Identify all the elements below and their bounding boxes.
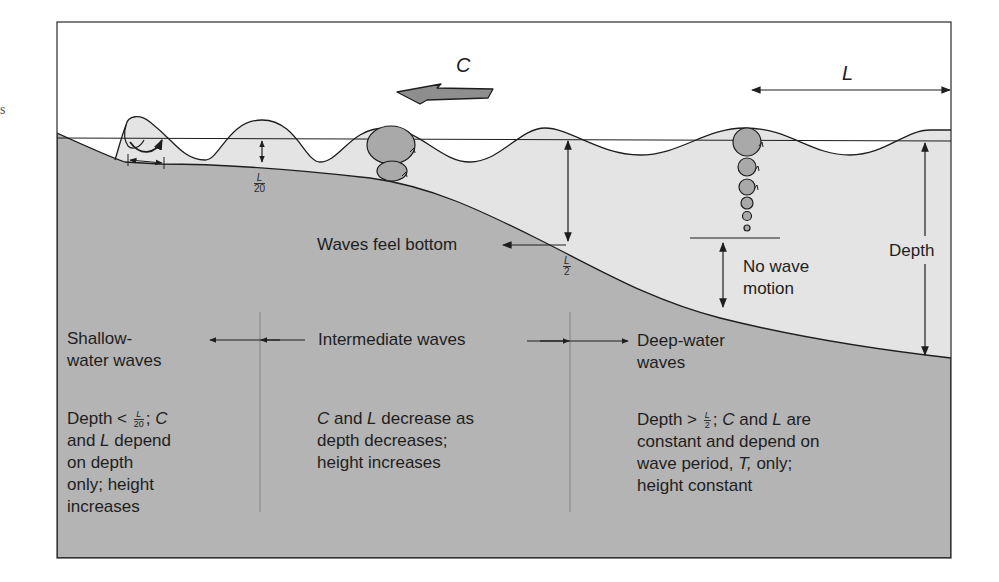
- shallow-heading-1: Shallow-: [67, 328, 132, 349]
- orbit-intermediate-1: [367, 126, 415, 164]
- deep-heading-1: Deep-water: [637, 330, 725, 351]
- orbit-deep-6: [744, 225, 750, 231]
- desc-text: Depth <: [67, 409, 132, 428]
- stray-glyph: s: [0, 102, 5, 118]
- orbit-deep-3: [739, 179, 755, 195]
- desc-text: wave period,: [637, 454, 738, 473]
- inline-fraction: L2: [704, 411, 711, 430]
- desc-text: Depth >: [637, 410, 702, 429]
- depth-label: Depth: [889, 240, 934, 261]
- intermediate-desc-line-1: C and L decrease as: [317, 408, 474, 429]
- deep-desc-line-1: Depth > L2; C and L are: [637, 409, 811, 430]
- no-wave-motion-label-1: No wave: [743, 256, 809, 277]
- wave-diagram: s C L L 20 L 2 Waves feel bottom No wave…: [0, 0, 999, 582]
- desc-text: and: [735, 410, 773, 429]
- desc-text: are: [782, 410, 811, 429]
- desc-italic: C: [155, 409, 167, 428]
- waves-feel-bottom-label: Waves feel bottom: [317, 234, 457, 255]
- wave-base-fraction: L 2: [563, 256, 571, 277]
- shallow-desc-line-4: only; height: [67, 474, 154, 495]
- shallow-desc-line-3: on depth: [67, 452, 133, 473]
- deep-heading-2: waves: [637, 352, 685, 373]
- inline-fraction: L20: [134, 410, 144, 429]
- desc-text: only;: [752, 454, 793, 473]
- intermediate-desc-line-2: depth decreases;: [317, 430, 447, 451]
- intermediate-heading: Intermediate waves: [318, 329, 465, 350]
- desc-italic: L: [772, 410, 781, 429]
- orbit-deep-5: [743, 212, 752, 221]
- desc-text: ;: [146, 409, 155, 428]
- orbit-intermediate-2: [377, 161, 407, 181]
- shallow-desc-line-1: Depth < L20; C: [67, 408, 168, 429]
- desc-italic: L: [100, 431, 109, 450]
- orbit-deep-2: [738, 158, 756, 176]
- fraction-denominator: 2: [704, 421, 711, 430]
- orbit-deep-1: [733, 128, 761, 156]
- desc-text: depend: [110, 431, 171, 450]
- shallow-desc-line-5: increases: [67, 496, 140, 517]
- intermediate-desc-line-3: height increases: [317, 452, 441, 473]
- orbit-deep-4: [741, 197, 753, 209]
- shallow-depth-fraction: L 20: [254, 173, 265, 194]
- desc-italic: L: [367, 409, 376, 428]
- shallow-desc-line-2: and L depend: [67, 430, 171, 451]
- wave-speed-symbol: C: [456, 54, 470, 77]
- shallow-heading-2: water waves: [67, 350, 161, 371]
- desc-italic: C: [722, 410, 734, 429]
- desc-italic: C: [317, 409, 329, 428]
- desc-text: and: [67, 431, 100, 450]
- desc-text: decrease as: [377, 409, 474, 428]
- fraction-denominator: 20: [254, 184, 265, 194]
- desc-text: ;: [713, 410, 722, 429]
- deep-desc-line-4: height constant: [637, 475, 752, 496]
- deep-desc-line-2: constant and depend on: [637, 431, 819, 452]
- fraction-denominator: 20: [134, 420, 144, 429]
- deep-desc-line-3: wave period, T, only;: [637, 453, 792, 474]
- wavelength-symbol: L: [842, 62, 853, 85]
- desc-italic: T,: [738, 454, 752, 473]
- fraction-denominator: 2: [563, 267, 571, 277]
- desc-text: and: [329, 409, 367, 428]
- no-wave-motion-label-2: motion: [743, 278, 794, 299]
